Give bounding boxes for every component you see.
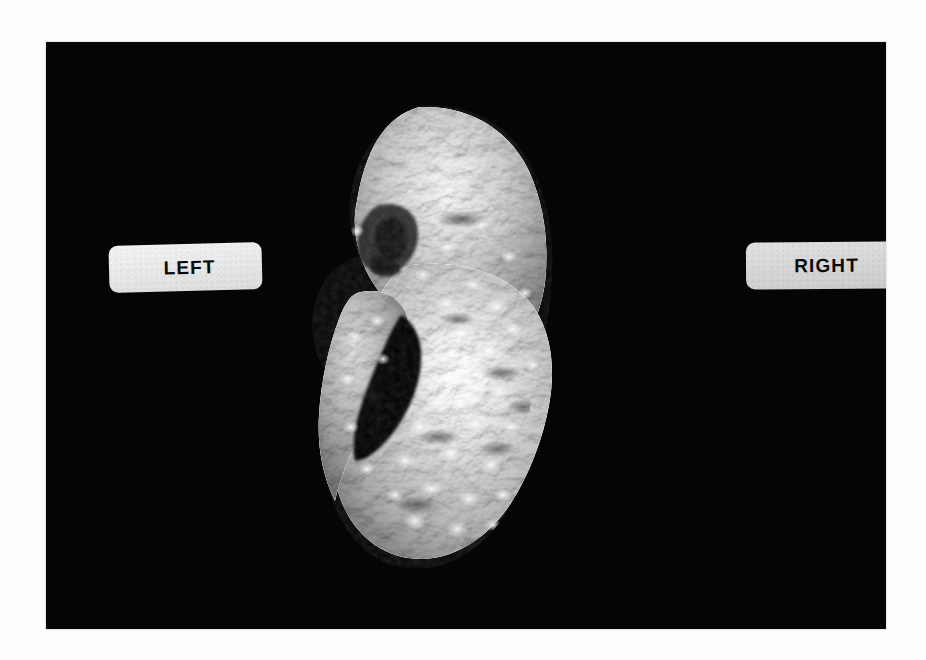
embryo-render-svg [251,97,601,577]
specimen-highlights [251,97,601,577]
volume-render-stage [46,42,886,629]
embryo-volume-render [251,97,601,577]
orientation-label-left-text: LEFT [163,256,215,279]
figure-page: LEFT RIGHT C [0,0,926,660]
image-panel: LEFT RIGHT C [46,42,886,629]
orientation-label-right-text: RIGHT [794,254,859,276]
orientation-label-left: LEFT [108,242,262,293]
orientation-label-right: RIGHT [746,241,886,289]
